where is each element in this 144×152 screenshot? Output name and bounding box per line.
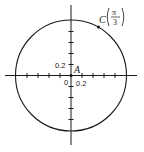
point-a-label: A — [73, 64, 81, 75]
unit-circle-diagram: A 0.2 0.2 0 C π 3 — [0, 0, 144, 152]
point-c-dot — [97, 25, 100, 28]
origin-label: 0 — [64, 78, 68, 87]
point-a-dot — [69, 74, 72, 77]
point-c-label: C — [99, 14, 106, 25]
angle-numerator: π — [112, 8, 116, 17]
x-tick-label: 0.2 — [76, 79, 86, 88]
angle-fraction: π 3 — [107, 8, 124, 27]
angle-denominator: 3 — [113, 18, 117, 27]
y-tick-label: 0.2 — [55, 61, 65, 70]
